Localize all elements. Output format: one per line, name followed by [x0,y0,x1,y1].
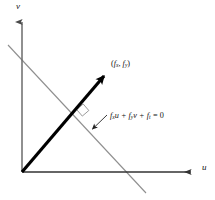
u-axis-label: u [202,163,207,172]
close-paren: ) [127,59,130,68]
eq-equals-zero: = 0 [151,111,165,120]
eq-plus1: + [119,111,129,120]
v-axis-label: v [16,2,20,11]
constraint-equation-label: fxu + fyv + ft = 0 [110,112,164,121]
figure-background [0,0,215,200]
gradient-vector-label: (fx, fy) [111,60,130,69]
figure-container: v u (fx, fy) fxu + fyv + ft = 0 [0,0,215,200]
eq-plus2: + [137,111,147,120]
flow-constraint-diagram [0,0,215,200]
